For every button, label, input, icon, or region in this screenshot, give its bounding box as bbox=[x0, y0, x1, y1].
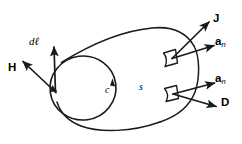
dl-vector-line bbox=[54, 47, 56, 93]
open-surface-s bbox=[57, 28, 199, 131]
surface-bottom-edge bbox=[57, 102, 160, 131]
h-vector bbox=[23, 62, 56, 93]
label-normal-upper: an bbox=[215, 36, 226, 48]
figure-canvas bbox=[0, 0, 242, 144]
label-h-field: H bbox=[8, 62, 16, 74]
label-normal-lower-sub: n bbox=[221, 77, 225, 86]
dl-vector bbox=[54, 47, 56, 93]
label-normal-upper-sub: n bbox=[221, 40, 225, 49]
h-vector-line bbox=[23, 62, 56, 93]
electromagnetics-figure: H dℓ c s J an an D bbox=[0, 0, 242, 144]
label-current-density-j: J bbox=[213, 13, 219, 25]
label-dl-element: dℓ bbox=[29, 36, 39, 47]
label-surface-s: s bbox=[139, 82, 143, 92]
d-vector bbox=[173, 94, 216, 107]
label-normal-lower: an bbox=[215, 73, 226, 85]
d-vector-line bbox=[173, 94, 216, 107]
an-lower-vector bbox=[173, 83, 215, 94]
an-lower-vector-line bbox=[173, 83, 215, 94]
label-contour-c: c bbox=[105, 85, 109, 95]
label-flux-density-d: D bbox=[221, 97, 229, 109]
